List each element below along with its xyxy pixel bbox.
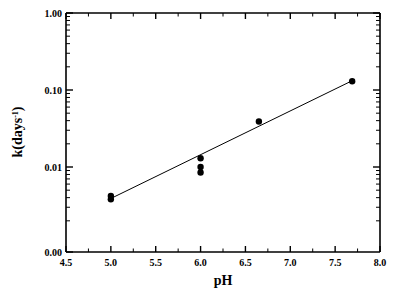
x-tick-label: 8.0	[374, 257, 387, 268]
y-tick-label: 1.00	[45, 8, 63, 19]
y-tick-label: 0.01	[45, 162, 63, 173]
x-tick-label: 7.5	[329, 257, 342, 268]
data-point	[349, 78, 355, 84]
x-tick-label: 6.0	[194, 257, 207, 268]
data-point	[197, 164, 203, 170]
y-tick-label: 0.00	[45, 247, 63, 258]
data-point	[108, 193, 114, 199]
y-tick-label: 0.10	[45, 85, 63, 96]
x-axis-title: pH	[214, 273, 233, 288]
x-tick-label: 6.5	[239, 257, 252, 268]
data-point	[256, 118, 262, 124]
x-tick-label: 5.5	[149, 257, 162, 268]
chart-figure: 1.000.100.010.00 4.55.05.56.06.57.07.58.…	[0, 0, 401, 291]
y-axis-title-base: k(days	[10, 117, 26, 157]
y-axis-title-superscript: -1	[11, 111, 20, 118]
x-tick-label: 5.0	[105, 257, 118, 268]
x-tick-label: 7.0	[284, 257, 297, 268]
x-tick-label: 4.5	[60, 257, 73, 268]
y-axis-title-close: )	[10, 106, 26, 111]
scatter-plot-svg: 1.000.100.010.00 4.55.05.56.06.57.07.58.…	[0, 0, 401, 291]
data-point	[197, 155, 203, 161]
